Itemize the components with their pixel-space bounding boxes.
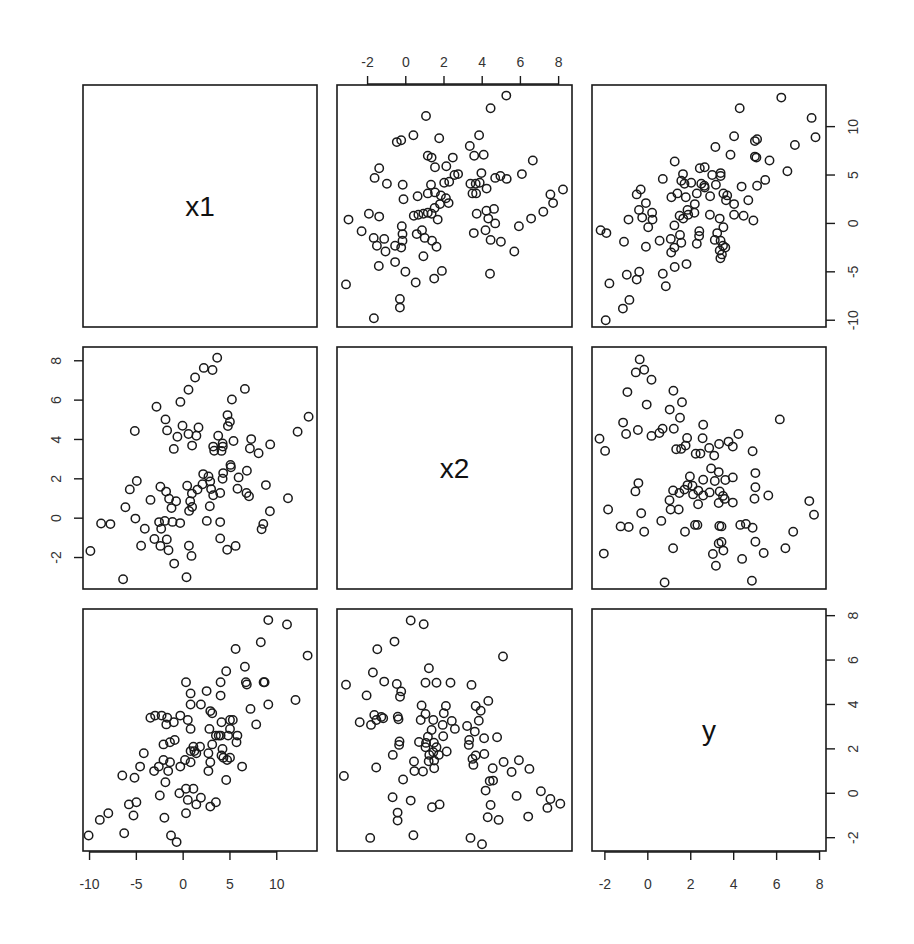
data-point xyxy=(216,534,224,542)
data-point xyxy=(231,645,239,653)
data-point xyxy=(197,700,205,708)
data-point xyxy=(675,505,683,513)
data-point xyxy=(170,559,178,567)
data-point xyxy=(176,398,184,406)
data-point xyxy=(136,762,144,770)
data-point xyxy=(186,497,194,505)
data-point xyxy=(781,544,789,552)
data-point xyxy=(512,792,520,800)
tick-label: -2 xyxy=(599,876,612,892)
data-point xyxy=(486,236,494,244)
data-point xyxy=(208,709,216,717)
data-point xyxy=(777,93,785,101)
data-point xyxy=(481,226,489,234)
data-point xyxy=(199,470,207,478)
axis-bottom-y: -202468 xyxy=(599,851,824,892)
data-point xyxy=(706,192,714,200)
data-point xyxy=(744,196,752,204)
data-point xyxy=(620,238,628,246)
data-point xyxy=(749,216,757,224)
data-point xyxy=(97,519,105,527)
data-point xyxy=(417,701,425,709)
data-point xyxy=(264,700,272,708)
data-point xyxy=(172,838,180,846)
data-point xyxy=(706,211,714,219)
data-point xyxy=(634,479,642,487)
panel-frame xyxy=(83,347,317,589)
data-point xyxy=(229,437,237,445)
data-point xyxy=(671,157,679,165)
data-point xyxy=(214,432,222,440)
data-point xyxy=(438,267,446,275)
data-point xyxy=(183,482,191,490)
data-point xyxy=(284,494,292,502)
data-point xyxy=(417,716,425,724)
data-point xyxy=(182,809,190,817)
data-point xyxy=(170,445,178,453)
data-point xyxy=(600,549,608,557)
data-point xyxy=(375,212,383,220)
data-point xyxy=(682,260,690,268)
data-point xyxy=(163,426,171,434)
data-point xyxy=(388,793,396,801)
tick-label: 6 xyxy=(845,656,861,664)
data-point xyxy=(175,789,183,797)
data-point xyxy=(187,552,195,560)
data-point xyxy=(130,774,138,782)
data-point xyxy=(499,652,507,660)
data-point xyxy=(546,795,554,803)
data-point xyxy=(442,162,450,170)
data-point xyxy=(484,697,492,705)
data-point xyxy=(449,153,457,161)
panel-frame xyxy=(592,85,826,327)
data-point xyxy=(486,270,494,278)
tick-label: 0 xyxy=(402,54,410,70)
data-point xyxy=(366,834,374,842)
data-point xyxy=(640,528,648,536)
data-point xyxy=(748,524,756,532)
data-point xyxy=(810,511,818,519)
data-point xyxy=(667,235,675,243)
data-point xyxy=(131,514,139,522)
data-point xyxy=(365,210,373,218)
data-point xyxy=(222,667,230,675)
data-point xyxy=(369,668,377,676)
data-point xyxy=(730,211,738,219)
data-point xyxy=(293,428,301,436)
axis-right-y: -202468 xyxy=(826,612,861,844)
data-point xyxy=(669,387,677,395)
data-point xyxy=(484,813,492,821)
data-point xyxy=(518,170,526,178)
data-point xyxy=(805,497,813,505)
data-point xyxy=(206,758,214,766)
tick-label: -5 xyxy=(130,876,143,892)
data-point xyxy=(439,732,447,740)
data-point xyxy=(486,104,494,112)
data-point xyxy=(86,547,94,555)
tick-label: 4 xyxy=(48,435,64,443)
data-point xyxy=(342,280,350,288)
data-point xyxy=(133,477,141,485)
data-point xyxy=(126,485,134,493)
data-point xyxy=(791,141,799,149)
data-point xyxy=(217,718,225,726)
data-point xyxy=(647,432,655,440)
data-point xyxy=(477,707,485,715)
data-point xyxy=(375,164,383,172)
data-point xyxy=(357,227,365,235)
data-point xyxy=(477,169,485,177)
data-point xyxy=(233,485,241,493)
data-point xyxy=(642,243,650,251)
data-point xyxy=(381,247,389,255)
data-point xyxy=(507,768,515,776)
tick-label: 0 xyxy=(644,876,652,892)
data-point xyxy=(524,812,532,820)
data-points xyxy=(596,93,819,324)
data-point xyxy=(340,772,348,780)
data-point xyxy=(494,816,502,824)
data-point xyxy=(344,215,352,223)
data-point xyxy=(422,112,430,120)
data-point xyxy=(711,143,719,151)
data-point xyxy=(466,142,474,150)
data-point xyxy=(208,740,216,748)
